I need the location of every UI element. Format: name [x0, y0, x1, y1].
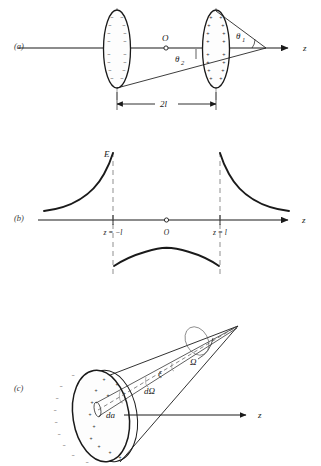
panel-a-drawing: z −− −− −− −− −− −− −− −− — [0, 0, 321, 130]
svg-text:−: − — [57, 431, 60, 437]
svg-text:+: + — [94, 387, 97, 393]
svg-text:−: − — [120, 14, 123, 20]
theta1-arc — [252, 40, 255, 48]
tick-label-left: z = −l — [103, 228, 123, 237]
svg-text:+: + — [90, 399, 93, 405]
pencil-axis-dashed — [98, 327, 236, 410]
svg-text:+: + — [219, 75, 222, 81]
theta2-label: θ — [175, 54, 180, 64]
left-charged-disc: −− −− −− −− −− −− −− −− — [104, 10, 131, 88]
panel-a-origin-label: O — [162, 33, 169, 43]
panel-a-origin-marker — [164, 46, 168, 50]
solid-angle-label: Ω — [190, 357, 197, 367]
svg-text:−: − — [110, 75, 113, 81]
svg-text:+: + — [207, 67, 210, 73]
svg-text:−: − — [123, 30, 126, 36]
svg-text:+: + — [209, 14, 212, 20]
svg-text:−: − — [110, 14, 113, 20]
svg-text:−: − — [107, 59, 110, 65]
svg-text:+: + — [207, 22, 210, 28]
panel-c-drawing: + + + + + + + + + + + + − − − − − − — [0, 285, 321, 466]
svg-text:+: + — [206, 51, 209, 57]
svg-text:+: + — [108, 449, 111, 455]
panel-b: (b) z E — [0, 130, 321, 285]
theta2-subscript: 2 — [181, 59, 185, 66]
area-element-label: da — [106, 410, 116, 420]
svg-text:+: + — [206, 38, 209, 44]
svg-text:−: − — [54, 419, 57, 425]
svg-text:+: + — [206, 30, 209, 36]
theta1-subscript: 1 — [242, 36, 245, 43]
svg-text:+: + — [221, 67, 224, 73]
svg-text:−: − — [120, 75, 123, 81]
separation-label: 2l — [160, 99, 168, 109]
right-charged-disc: ++ ++ ++ ++ ++ ++ ++ ++ — [203, 10, 230, 88]
svg-text:−: − — [59, 383, 62, 389]
panel-b-origin-marker — [164, 218, 168, 222]
curve-right-outer — [220, 153, 289, 211]
svg-text:+: + — [115, 381, 118, 387]
xi-label: ξ — [158, 369, 162, 379]
panel-a-axis-label: z — [302, 43, 307, 53]
curve-inner — [114, 248, 219, 266]
panel-c: (c) + + + + + + — [0, 285, 321, 466]
svg-text:−: − — [123, 38, 126, 44]
svg-text:−: − — [107, 38, 110, 44]
svg-text:−: − — [123, 59, 126, 65]
panel-c-axis-label: z — [257, 410, 262, 420]
svg-text:+: + — [88, 411, 91, 417]
panel-b-axis-label: z — [301, 215, 306, 225]
tick-label-right: z = l — [212, 228, 227, 237]
svg-text:−: − — [71, 372, 74, 378]
panel-b-origin-label: O — [164, 228, 170, 237]
svg-text:−: − — [122, 22, 125, 28]
svg-text:+: + — [97, 443, 100, 449]
svg-text:−: − — [108, 22, 111, 28]
svg-text:+: + — [221, 22, 224, 28]
svg-text:+: + — [89, 435, 92, 441]
svg-text:+: + — [118, 454, 121, 460]
theta2-ray — [117, 48, 266, 88]
field-axis-label: E — [103, 149, 110, 159]
svg-text:+: + — [102, 376, 105, 382]
svg-text:−: − — [107, 51, 110, 57]
svg-text:+: + — [222, 51, 225, 57]
svg-text:−: − — [122, 67, 125, 73]
svg-text:−: − — [85, 459, 88, 465]
panel-b-chart: z E z = −l O z = l — [0, 130, 321, 285]
curve-left-outer — [44, 153, 113, 211]
disc-front-face — [66, 366, 136, 466]
theta1-label: θ — [236, 31, 241, 41]
panel-a: (a) z — [0, 0, 321, 130]
svg-text:+: + — [222, 38, 225, 44]
svg-text:+: + — [92, 423, 95, 429]
differential-solid-angle-label: dΩ — [144, 386, 156, 396]
svg-text:+: + — [222, 30, 225, 36]
svg-text:−: − — [62, 442, 65, 448]
svg-text:−: − — [108, 67, 111, 73]
svg-text:−: − — [71, 452, 74, 458]
svg-text:+: + — [209, 75, 212, 81]
figure-container: (a) z — [0, 0, 321, 466]
svg-text:−: − — [53, 407, 56, 413]
svg-text:−: − — [55, 395, 58, 401]
svg-text:−: − — [123, 51, 126, 57]
svg-text:−: − — [107, 30, 110, 36]
